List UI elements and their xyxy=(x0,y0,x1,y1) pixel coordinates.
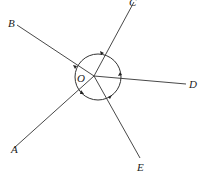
ray-OA xyxy=(14,76,94,148)
label-C: C xyxy=(129,0,137,8)
label-B: B xyxy=(8,17,15,29)
angles-diagram: O A B C D E xyxy=(0,0,204,177)
label-D: D xyxy=(188,78,197,90)
ray-OB xyxy=(17,25,94,76)
label-E: E xyxy=(136,161,144,173)
ray-OE xyxy=(94,76,140,158)
label-O: O xyxy=(77,72,85,84)
arrow-icon xyxy=(108,95,112,99)
ray-OC xyxy=(94,2,134,76)
label-A: A xyxy=(10,143,18,155)
ray-OD xyxy=(94,76,186,84)
arrow-icon xyxy=(80,90,84,94)
